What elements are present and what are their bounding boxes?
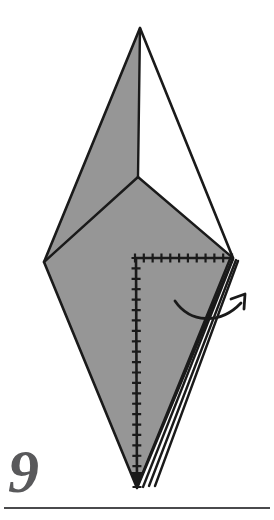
step-number: 9 xyxy=(8,437,64,505)
origami-step-page: 9 xyxy=(0,0,274,520)
bottom-divider-rule xyxy=(4,507,270,509)
